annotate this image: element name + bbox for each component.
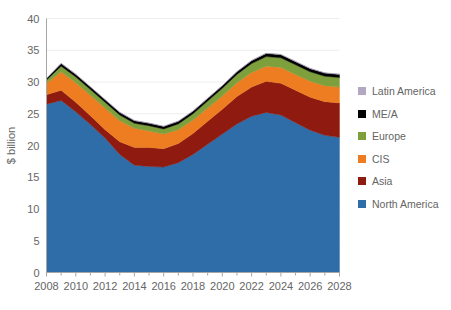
legend-item-europe[interactable]: Europe xyxy=(358,125,450,148)
x-tick-label: 2018 xyxy=(181,280,205,292)
legend-swatch-icon xyxy=(358,132,366,140)
legend-swatch-icon xyxy=(358,155,366,163)
y-tick-label: 35 xyxy=(27,44,39,56)
legend-item-label: ME/A xyxy=(372,109,398,120)
x-tick-label: 2026 xyxy=(298,280,322,292)
y-tick-label: 10 xyxy=(27,203,39,215)
x-tick-label: 2012 xyxy=(93,280,117,292)
legend-item-label: North America xyxy=(372,199,439,210)
y-tick-label: 25 xyxy=(27,108,39,120)
legend-swatch-icon xyxy=(358,87,366,95)
y-tick-label: 15 xyxy=(27,171,39,183)
y-tick-label: 20 xyxy=(27,140,39,152)
stacked-area-chart: 0510152025303540 20082010201220142016201… xyxy=(0,0,451,310)
legend-item-label: Europe xyxy=(372,131,406,142)
y-tick-label: 0 xyxy=(33,267,39,279)
legend-item-label: Latin America xyxy=(372,86,436,97)
y-tick-label: 40 xyxy=(27,13,39,25)
x-axis-ticks xyxy=(47,273,340,277)
x-tick-label: 2022 xyxy=(239,280,263,292)
x-axis-tick-labels: 2008201020122014201620182020202220242026… xyxy=(34,280,351,292)
x-tick-label: 2010 xyxy=(64,280,88,292)
legend-item-latin-america[interactable]: Latin America xyxy=(358,80,450,103)
legend-swatch-icon xyxy=(358,177,366,185)
x-tick-label: 2008 xyxy=(34,280,58,292)
legend-item-label: CIS xyxy=(372,154,390,165)
y-tick-label: 5 xyxy=(33,235,39,247)
legend-item-north-america[interactable]: North America xyxy=(358,193,450,216)
x-tick-label: 2014 xyxy=(122,280,146,292)
legend-swatch-icon xyxy=(358,110,366,118)
x-tick-label: 2028 xyxy=(327,280,351,292)
x-tick-label: 2020 xyxy=(210,280,234,292)
legend-item-label: Asia xyxy=(372,176,392,187)
legend-item-asia[interactable]: Asia xyxy=(358,170,450,193)
y-tick-label: 30 xyxy=(27,76,39,88)
legend-item-me-a[interactable]: ME/A xyxy=(358,103,450,126)
y-axis-title: $ billion xyxy=(5,127,17,164)
x-tick-label: 2016 xyxy=(151,280,175,292)
y-axis-tick-labels: 0510152025303540 xyxy=(27,13,39,279)
area-series-group xyxy=(47,53,340,272)
x-tick-label: 2024 xyxy=(269,280,293,292)
chart-legend: Latin AmericaME/AEuropeCISAsiaNorth Amer… xyxy=(358,80,450,215)
legend-item-cis[interactable]: CIS xyxy=(358,148,450,171)
legend-swatch-icon xyxy=(358,200,366,208)
